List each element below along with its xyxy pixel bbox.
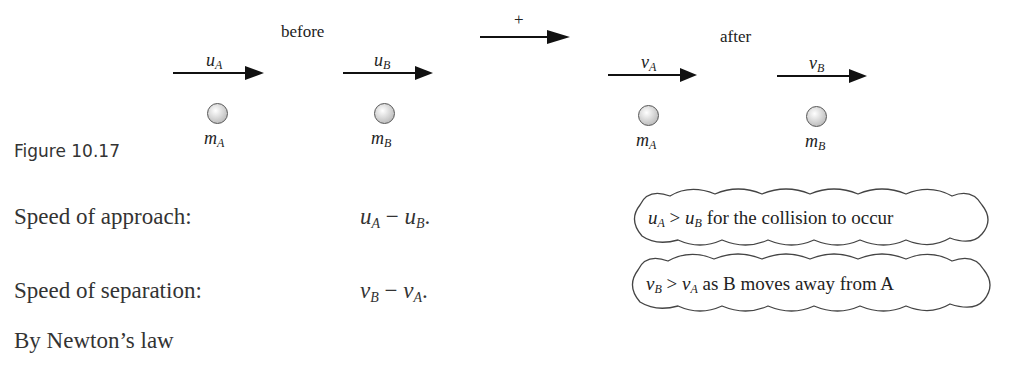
velocity-label-vb: vB	[809, 53, 824, 76]
mass-label-mb-before: mB	[371, 128, 391, 151]
mass-label-mb-after: mB	[805, 131, 825, 154]
after-label: after	[720, 27, 751, 47]
approach-label: Speed of approach:	[14, 204, 192, 230]
before-label: before	[281, 22, 324, 42]
ball-icon-mb-after	[806, 106, 827, 127]
velocity-label-va: vA	[641, 52, 656, 75]
mass-label-ma-after: mA	[636, 130, 656, 153]
ball-icon-mb-before	[374, 103, 395, 124]
separation-expression: vB − vA.	[360, 278, 428, 306]
note-approach-condition: uA > uB for the collision to occur	[648, 207, 893, 231]
arrow-icon-positive-direction	[480, 30, 570, 44]
note-separation-condition: vB > vA as B moves away from A	[646, 273, 894, 297]
approach-expression: uA − uB.	[360, 204, 430, 232]
positive-direction-label: +	[514, 10, 524, 30]
newton-law-text: By Newton’s law	[14, 328, 174, 354]
ball-icon-ma-after	[638, 105, 659, 126]
velocity-label-ub: uB	[374, 50, 390, 73]
figure-caption: Figure 10.17	[14, 141, 120, 161]
mass-label-ma-before: mA	[204, 128, 224, 151]
separation-label: Speed of separation:	[14, 278, 202, 304]
velocity-label-ua: uA	[206, 50, 222, 73]
ball-icon-ma-before	[207, 103, 228, 124]
diagram-graphics	[0, 0, 1012, 368]
